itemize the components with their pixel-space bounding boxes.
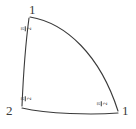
vertex-label-bottom-left: 2 (6, 104, 13, 117)
geometry-drawing (0, 0, 136, 129)
fraction-denominator: 2 (102, 101, 109, 106)
fraction-numerator: π (19, 96, 26, 101)
bottom-edge-path (22, 108, 118, 114)
curved-arc-path (30, 17, 118, 111)
figure-canvas: 1 2 1 π 2 π 2 π 2 (0, 0, 136, 129)
fraction-numerator: π (19, 26, 26, 31)
edge-label-bottom: π 2 (19, 96, 33, 101)
fraction-denominator: 2 (26, 26, 33, 31)
fraction-numerator: π (95, 101, 102, 106)
fraction-denominator: 2 (26, 96, 33, 101)
fraction-bottom: π 2 (19, 96, 33, 101)
edge-label-left: π 2 (19, 26, 33, 31)
vertex-label-top-left: 1 (29, 3, 36, 16)
fraction-right: π 2 (95, 101, 109, 106)
edge-label-right: π 2 (95, 101, 109, 106)
fraction-left: π 2 (19, 26, 33, 31)
vertex-label-bottom-right: 1 (122, 104, 129, 117)
